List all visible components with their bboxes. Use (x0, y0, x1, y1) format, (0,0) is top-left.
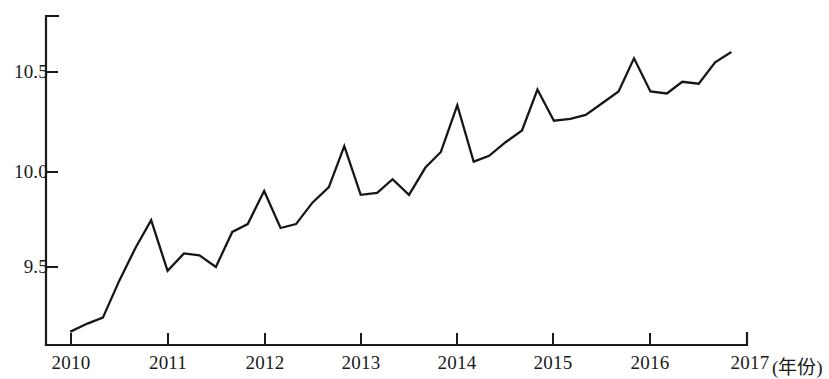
x-axis-line (46, 333, 747, 345)
data-series-line (71, 53, 731, 332)
x-axis-unit-label: (年份) (772, 352, 823, 379)
x-axis-label-2010: 2010 (52, 352, 91, 374)
x-axis-label-2013: 2013 (342, 352, 381, 374)
y-axis-label-10-0: 10.0 (14, 161, 48, 183)
x-axis-label-2014: 2014 (438, 352, 477, 374)
x-axis-label-2015: 2015 (534, 352, 573, 374)
x-axis-label-2012: 2012 (246, 352, 285, 374)
x-axis-label-2017: 2017 (731, 352, 770, 374)
x-axis-label-2016: 2016 (631, 352, 670, 374)
y-axis-label-9-5: 9.5 (24, 256, 48, 278)
y-axis-label-10-5: 10.5 (14, 61, 48, 83)
x-axis-label-2011: 2011 (149, 352, 187, 374)
